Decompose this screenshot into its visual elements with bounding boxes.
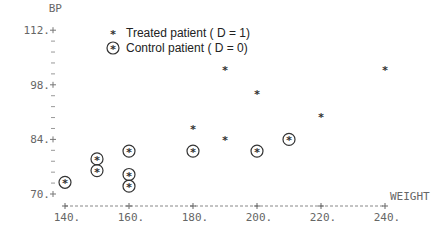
x-tick-label: 140. xyxy=(54,211,81,224)
control-point: * xyxy=(123,180,135,194)
y-axis: 70.84.98.112. xyxy=(24,24,57,201)
treated-point: * xyxy=(190,123,197,136)
x-tick-label: 180. xyxy=(182,211,209,224)
x-tick-label: 240. xyxy=(374,211,401,224)
control-point: * xyxy=(283,133,295,147)
treated-point: * xyxy=(222,134,229,147)
asterisk-marker-icon: * xyxy=(190,146,197,159)
x-axis-label: WEIGHT xyxy=(390,190,430,203)
legend-treated-label: Treated patient ( D = 1) xyxy=(126,26,250,40)
asterisk-marker-icon: * xyxy=(94,166,101,179)
control-point: * xyxy=(91,165,103,179)
x-axis: 140.160.180.200.220.240. xyxy=(54,203,401,224)
treated-point: * xyxy=(382,64,389,77)
plot-area: 70.84.98.112. 140.160.180.200.220.240. B… xyxy=(0,0,447,235)
control-point: * xyxy=(59,176,71,190)
treated-point: * xyxy=(318,111,325,124)
control-point: * xyxy=(123,145,135,159)
asterisk-marker-icon: * xyxy=(190,123,197,136)
asterisk-marker-icon: * xyxy=(126,146,133,159)
treated-point: * xyxy=(222,64,229,77)
y-axis-label: BP xyxy=(49,2,63,15)
asterisk-marker-icon: * xyxy=(62,177,69,190)
control-point: * xyxy=(251,145,263,159)
asterisk-marker-icon: * xyxy=(222,134,229,147)
x-tick-label: 220. xyxy=(310,211,337,224)
asterisk-marker-icon: * xyxy=(254,88,261,101)
legend: * Treated patient ( D = 1) * Control pat… xyxy=(107,26,250,56)
asterisk-marker-icon: * xyxy=(318,111,325,124)
treated-point: * xyxy=(254,88,261,101)
x-tick-label: 160. xyxy=(118,211,145,224)
data-points: *************** xyxy=(59,64,388,194)
asterisk-marker-icon: * xyxy=(254,146,261,159)
asterisk-marker-icon: * xyxy=(382,64,389,77)
x-tick-label: 200. xyxy=(246,211,273,224)
asterisk-marker-icon: * xyxy=(286,134,293,147)
y-tick-label: 84. xyxy=(30,133,50,146)
y-tick-label: 70. xyxy=(30,188,50,201)
legend-treated-symbol: * xyxy=(110,28,117,41)
control-point: * xyxy=(187,145,199,159)
y-tick-label: 112. xyxy=(24,24,51,37)
legend-control-symbol: * xyxy=(110,43,117,56)
legend-control-label: Control patient ( D = 0) xyxy=(126,41,248,55)
scatter-chart: 70.84.98.112. 140.160.180.200.220.240. B… xyxy=(0,0,447,235)
asterisk-marker-icon: * xyxy=(222,64,229,77)
y-tick-label: 98. xyxy=(30,79,50,92)
asterisk-marker-icon: * xyxy=(126,181,133,194)
